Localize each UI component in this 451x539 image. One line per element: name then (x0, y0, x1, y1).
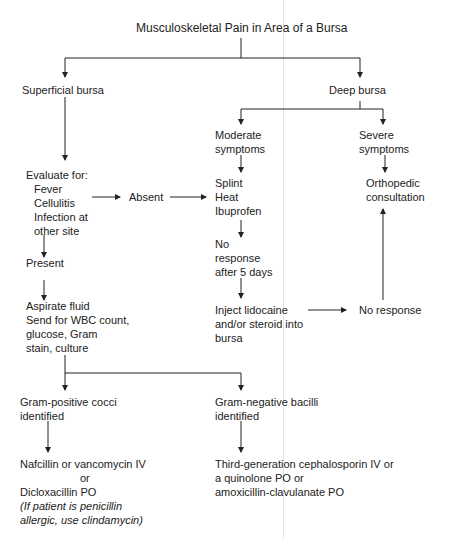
node-no-response: No response (359, 303, 421, 317)
node-deep-bursa: Deep bursa (329, 83, 386, 97)
root-title: Musculoskeletal Pain in Area of a Bursa (136, 21, 347, 35)
node-penicillin-allergy-note: (If patient is penicillin allergic, use … (20, 499, 143, 527)
node-absent: Absent (129, 190, 163, 204)
node-conservative-therapy: Splint Heat Ibuprofen (215, 176, 261, 218)
node-gram-negative-tx: Third-generation cephalosporin IV or a q… (215, 457, 394, 499)
node-severe-symptoms: Severe symptoms (359, 128, 409, 156)
node-gram-positive-tx-or: or (80, 471, 90, 485)
node-superficial-bursa: Superficial bursa (22, 83, 104, 97)
node-present: Present (26, 256, 64, 270)
node-gram-positive: Gram-positive cocci identified (20, 395, 117, 423)
node-evaluate-items: Fever Cellulitis Infection at other site (34, 182, 88, 238)
node-no-response-5-days: No response after 5 days (215, 237, 272, 279)
node-gram-positive-tx-1: Nafcillin or vancomycin IV (20, 457, 146, 471)
node-gram-positive-tx-2: Dicloxacillin PO (20, 485, 96, 499)
node-moderate-symptoms: Moderate symptoms (215, 128, 265, 156)
node-evaluate-heading: Evaluate for: (26, 168, 88, 182)
node-aspirate-fluid: Aspirate fluid Send for WBC count, gluco… (26, 299, 129, 355)
node-inject: Inject lidocaine and/or steroid into bur… (215, 303, 303, 345)
node-gram-negative: Gram-negative bacilli identified (215, 395, 318, 423)
node-orthopedic-consultation: Orthopedic consultation (366, 176, 425, 204)
